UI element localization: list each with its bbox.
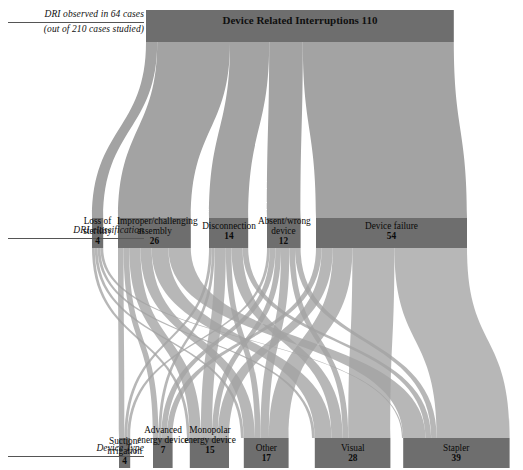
title-value: 110 xyxy=(362,14,378,26)
node-absent-wrong-device[interactable] xyxy=(267,218,301,248)
node-device-failure[interactable] xyxy=(316,218,467,248)
top-note-line1: DRI observed in 64 cases xyxy=(45,9,145,19)
node-advanced-energy-device[interactable] xyxy=(153,438,173,468)
title-text: Device Related Interruptions xyxy=(223,14,359,26)
dri-classification-rule xyxy=(8,238,144,239)
node-label-device-related-interruptions: Device Related Interruptions 110 xyxy=(146,14,454,27)
flow-failure-visual xyxy=(348,248,394,438)
sankey-figure: DRI observed in 64 cases (out of 210 cas… xyxy=(0,0,523,470)
node-visual[interactable] xyxy=(315,438,391,468)
device-type-rule xyxy=(8,456,144,457)
node-disconnection[interactable] xyxy=(209,218,248,248)
flow-dri-absent xyxy=(267,42,303,218)
flows-level-1 xyxy=(92,42,467,218)
flow-assembly-suction xyxy=(118,248,125,438)
dri-classification-axis-label: DRI classification xyxy=(8,225,144,239)
top-note: DRI observed in 64 cases (out of 210 cas… xyxy=(8,9,144,35)
flow-dri-failure xyxy=(303,42,467,218)
top-note-rule xyxy=(8,22,144,23)
device-type-axis-label: Device Type xyxy=(8,443,144,457)
dri-classification-axis-text: DRI classification xyxy=(73,225,144,235)
top-note-line2: (out of 210 cases studied) xyxy=(44,24,144,34)
flows-level-2 xyxy=(92,248,510,438)
device-type-axis-text: Device Type xyxy=(96,443,144,453)
node-other[interactable] xyxy=(244,438,289,468)
node-monopolar-energy-device[interactable] xyxy=(190,438,229,468)
node-stapler[interactable] xyxy=(403,438,509,468)
